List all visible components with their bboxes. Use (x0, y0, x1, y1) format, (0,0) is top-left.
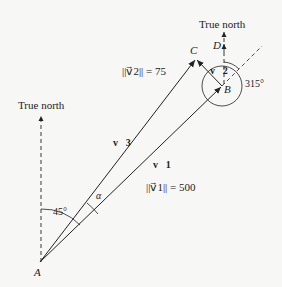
v2-norm-label: ||v⃗2|| = 75 (122, 65, 167, 77)
point-a-label: A (33, 266, 41, 278)
true-north-label-right: True north (199, 18, 246, 30)
vector-diagram: True north True north A B C D v⃗2 ||v⃗2|… (0, 0, 282, 287)
point-d-label: D (212, 39, 221, 51)
v2-label: v⃗2 (210, 65, 228, 76)
true-north-label-left: True north (18, 99, 65, 111)
point-c-label: C (190, 44, 198, 56)
angle-alpha-label: α (96, 190, 102, 201)
angle-arc-alpha (87, 203, 98, 214)
angle-45-label: 45° (53, 206, 67, 217)
angle-315-label: 315° (245, 78, 264, 89)
point-b-label: B (224, 83, 231, 95)
vector-v3 (40, 60, 195, 262)
v1-label: v⃗1 (153, 159, 171, 170)
vector-v1 (40, 87, 221, 262)
v3-label: v⃗3 (113, 137, 131, 148)
v1-norm-label: ||v⃗1|| = 500 (146, 181, 196, 193)
